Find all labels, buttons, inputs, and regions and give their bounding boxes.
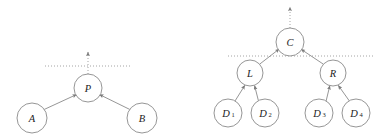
edge-b-to-p — [99, 95, 129, 110]
edge-l-to-c — [260, 49, 280, 64]
edge-d1-to-l — [235, 85, 245, 101]
node-l-label: L — [246, 68, 253, 79]
node-r[interactable]: R — [320, 60, 346, 86]
node-c[interactable]: C — [276, 28, 304, 56]
node-d3[interactable]: D 3 — [305, 99, 333, 127]
node-d3-label: D — [312, 108, 321, 119]
node-d4[interactable]: D 4 — [342, 99, 370, 127]
node-r-label: R — [329, 68, 337, 79]
diagram-right-group: C L R D 1 D 2 D — [214, 7, 375, 127]
node-a-label: A — [28, 113, 36, 124]
node-b[interactable]: B — [127, 103, 157, 133]
node-d2[interactable]: D 2 — [251, 99, 279, 127]
edge-d3-to-r — [326, 86, 330, 102]
node-d4-label: D — [349, 108, 358, 119]
edge-r-to-c — [301, 49, 323, 64]
node-d1-subscript: 1 — [232, 111, 235, 118]
tree-diagram-figure: P A B C — [0, 0, 386, 137]
node-p-label: P — [84, 83, 92, 94]
edge-d4-to-r — [338, 85, 349, 101]
node-d2-subscript: 2 — [269, 111, 272, 118]
node-p[interactable]: P — [74, 74, 102, 102]
node-d1-label: D — [221, 108, 230, 119]
node-l[interactable]: L — [237, 60, 263, 86]
edge-a-to-p — [44, 95, 77, 110]
diagram-left-group: P A B — [17, 52, 157, 133]
node-c-label: C — [286, 37, 294, 48]
figure-canvas: P A B C — [0, 0, 386, 137]
node-b-label: B — [139, 113, 146, 124]
node-d1[interactable]: D 1 — [214, 99, 242, 127]
edge-d2-to-l — [255, 86, 259, 102]
node-d3-subscript: 3 — [323, 111, 326, 118]
node-d2-label: D — [258, 108, 267, 119]
node-a[interactable]: A — [17, 103, 47, 133]
